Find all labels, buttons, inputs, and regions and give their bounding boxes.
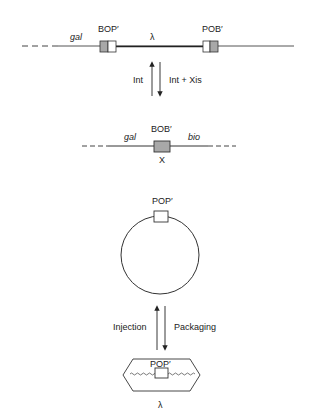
core-x-label: X (159, 155, 165, 165)
bob-site-box (154, 141, 170, 152)
reaction-arrows-integration: Int Int + Xis (133, 62, 202, 96)
top-gal-label: gal (70, 32, 83, 42)
pop-site-box-circle (154, 211, 168, 222)
pop-label-particle: POP′ (150, 359, 171, 369)
int-label: Int (133, 75, 144, 85)
pob-site-box (203, 41, 218, 52)
circular-phage: POP′ (121, 196, 199, 294)
packaging-label: Packaging (174, 322, 216, 332)
bio-label: bio (188, 132, 200, 142)
pop-site-box-particle (155, 368, 168, 378)
reaction-arrows-packaging: Injection Packaging (113, 306, 216, 350)
bop-label: BOP′ (98, 24, 119, 34)
integrated-prophage: gal BOP′ λ POB′ (22, 24, 294, 52)
lambda-label-top: λ (150, 32, 155, 42)
pop-label-circle: POP′ (152, 196, 173, 206)
bop-site-box (100, 41, 116, 52)
bob-label: BOB′ (151, 124, 172, 134)
int-xis-label: Int + Xis (169, 75, 202, 85)
diagram-canvas: gal BOP′ λ POB′ Int Int + Xis gal BOB′ b… (0, 0, 312, 418)
phage-particle: POP′ λ (123, 359, 200, 410)
circular-phage-dna (121, 216, 199, 294)
pob-label: POB′ (202, 24, 223, 34)
lambda-label-particle: λ (158, 400, 163, 410)
mid-gal-label: gal (124, 132, 137, 142)
bacterial-chromosome: gal BOB′ bio X (82, 124, 236, 165)
injection-label: Injection (113, 322, 147, 332)
